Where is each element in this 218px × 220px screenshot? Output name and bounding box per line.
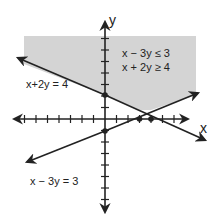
inequality-2: x + 2y ≥ 4 [122, 61, 170, 73]
y-axis-label: y [109, 12, 116, 28]
point-3-0 [137, 116, 143, 122]
inequality-graph: y x x − 3y ≤ 3 x + 2y ≥ 4 x+2y = 4 x − 3… [0, 0, 218, 220]
line-label-x-minus-3y: x − 3y = 3 [30, 175, 78, 187]
shaded-region [24, 36, 196, 110]
point-0-neg1 [102, 128, 108, 134]
line-x-minus-3y-eq-3 [27, 131, 105, 162]
line-label-x-plus-2y: x+2y = 4 [26, 78, 68, 90]
x-axis-label: x [200, 120, 207, 136]
point-0-2 [102, 92, 108, 98]
inequality-1: x − 3y ≤ 3 [122, 47, 170, 59]
point-4-0 [148, 116, 154, 122]
